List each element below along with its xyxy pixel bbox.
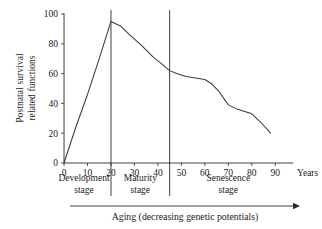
y-tick-label: 100 xyxy=(44,9,59,19)
y-tick-label: 40 xyxy=(49,99,59,109)
stage-label-group: DevelopmentstageMaturitystageSenescences… xyxy=(58,173,250,195)
stage-maturity-stage-label-line2: stage xyxy=(131,185,151,195)
stage-senescence-stage-label-line2: stage xyxy=(219,185,239,195)
x-axis-title: Years xyxy=(297,168,319,178)
stage-senescence-stage-label-line1: Senescence xyxy=(206,173,250,183)
y-tick-group: 020406080100 xyxy=(44,9,64,168)
arrow-head-icon xyxy=(293,203,300,209)
x-tick-label: 90 xyxy=(271,168,281,178)
aging-arrow xyxy=(70,203,300,209)
survival-function-curve xyxy=(64,21,271,163)
stage-development-stage-label-line2: stage xyxy=(74,185,94,195)
chart-plot: 020406080100 0102030405060708090 Years D… xyxy=(0,0,322,229)
chart-caption: Aging (decreasing genetic potentials) xyxy=(112,211,259,223)
stage-development-stage-label-line1: Development xyxy=(58,173,110,183)
y-tick-label: 60 xyxy=(49,69,59,79)
y-tick-label: 20 xyxy=(49,129,59,139)
figure-container: Postnatal survival related functions 020… xyxy=(0,0,322,229)
axes-group xyxy=(64,13,293,163)
x-tick-label: 50 xyxy=(177,168,187,178)
y-tick-label: 80 xyxy=(49,39,59,49)
stage-maturity-stage-label-line1: Maturity xyxy=(124,173,157,183)
y-tick-label: 0 xyxy=(53,158,58,168)
